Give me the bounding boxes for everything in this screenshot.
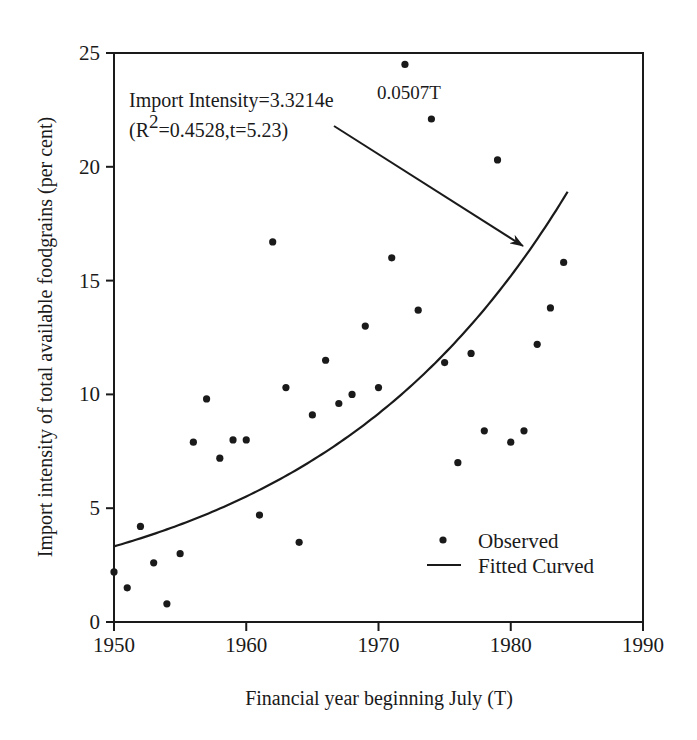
data-point: [481, 427, 488, 434]
data-point: [229, 436, 236, 443]
data-point: [454, 459, 461, 466]
x-tick-label: 1980: [490, 633, 532, 657]
data-point: [441, 359, 448, 366]
equation-main: Import Intensity=3.3214e: [129, 89, 334, 112]
x-axis-ticks: 19501960197019801990: [93, 622, 664, 657]
data-point: [520, 427, 527, 434]
scatter-chart: 0510152025 19501960197019801990 Import I…: [0, 0, 697, 740]
equation-exponent: 0.0507T: [377, 82, 441, 103]
data-point: [282, 384, 289, 391]
x-tick-label: 1950: [93, 633, 135, 657]
annotation-arrow: [334, 126, 523, 246]
data-point: [150, 559, 157, 566]
data-point: [494, 156, 501, 163]
data-point: [190, 439, 197, 446]
data-point: [137, 523, 144, 530]
data-point: [243, 436, 250, 443]
data-point: [401, 61, 408, 68]
fitted-curve-line: [114, 192, 568, 547]
data-point: [547, 304, 554, 311]
data-point: [507, 439, 514, 446]
data-point: [216, 455, 223, 462]
data-point: [428, 115, 435, 122]
data-point: [309, 411, 316, 418]
equation-annotation: Import Intensity=3.3214e 0.0507T: [129, 82, 441, 112]
fit-stats-sup: 2: [149, 111, 159, 132]
data-point: [375, 384, 382, 391]
data-point: [348, 391, 355, 398]
y-tick-label: 10: [79, 382, 100, 406]
y-axis-ticks: 0510152025: [79, 41, 114, 634]
legend-label-observed: Observed: [478, 529, 559, 553]
data-point: [177, 550, 184, 557]
data-point: [256, 511, 263, 518]
y-tick-label: 5: [90, 496, 101, 520]
x-tick-label: 1970: [358, 633, 400, 657]
data-point: [467, 350, 474, 357]
data-point: [322, 357, 329, 364]
y-tick-label: 15: [79, 269, 100, 293]
data-point: [534, 341, 541, 348]
data-point: [415, 307, 422, 314]
data-point: [203, 395, 210, 402]
x-axis-title: Financial year beginning July (T): [245, 687, 513, 710]
y-tick-label: 0: [90, 610, 101, 634]
legend-label-fitted: Fitted Curved: [478, 554, 595, 578]
y-tick-label: 25: [79, 41, 100, 65]
y-axis-title: Import intensity of total available food…: [34, 117, 57, 557]
data-point: [362, 323, 369, 330]
data-point: [269, 238, 276, 245]
fit-stats-prefix: (R: [129, 119, 150, 142]
data-point: [110, 568, 117, 575]
fit-stats-rest: =0.4528,t=5.23): [159, 119, 289, 142]
x-tick-label: 1990: [622, 633, 664, 657]
data-point: [296, 539, 303, 546]
data-point: [560, 259, 567, 266]
data-point: [388, 254, 395, 261]
y-tick-label: 20: [79, 155, 100, 179]
x-tick-label: 1960: [225, 633, 267, 657]
legend: Observed Fitted Curved: [427, 529, 595, 578]
fit-statistics-annotation: (R2=0.4528,t=5.23): [129, 111, 288, 142]
data-point: [124, 584, 131, 591]
legend-dot-icon: [439, 536, 446, 543]
data-point: [163, 600, 170, 607]
data-point: [335, 400, 342, 407]
